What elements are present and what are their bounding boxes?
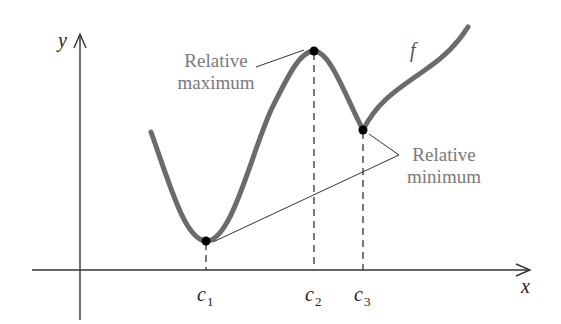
point-c2-max [310, 47, 319, 56]
min-annotation-line2: minimum [400, 166, 488, 188]
tick-c3-base: c [354, 283, 363, 305]
min-leader-line-c1 [213, 155, 399, 242]
y-axis-label: y [58, 30, 67, 50]
min-annotation-line1: Relative [400, 144, 488, 166]
tick-c2-base: c [305, 283, 314, 305]
max-annotation-line1: Relative [166, 50, 266, 72]
point-c1-min [202, 237, 211, 246]
max-annotation-line2: maximum [166, 72, 266, 94]
tick-c3-sub: 3 [364, 294, 371, 309]
tick-c2-sub: 2 [315, 294, 322, 309]
tick-label-c2: c2 [305, 284, 321, 307]
min-leader-line-c3 [369, 134, 399, 155]
point-c3-min [359, 126, 368, 135]
extrema-diagram: y x f c1 c2 c3 Relative maximum Relative… [0, 0, 561, 324]
relative-maximum-annotation: Relative maximum [166, 50, 266, 94]
tick-label-c3: c3 [354, 284, 370, 307]
tick-label-c1: c1 [197, 284, 213, 307]
tick-c1-base: c [197, 283, 206, 305]
tick-c1-sub: 1 [207, 294, 214, 309]
x-axis-label: x [521, 276, 530, 296]
relative-minimum-annotation: Relative minimum [400, 144, 488, 188]
function-label: f [410, 40, 416, 60]
